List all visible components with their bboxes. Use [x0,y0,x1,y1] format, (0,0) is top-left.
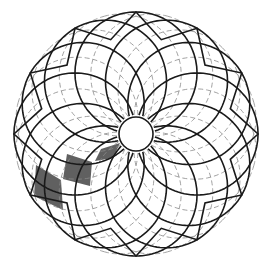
rosette-figure [0,0,267,261]
rosette-curve [14,73,133,134]
rosette-curve [75,12,136,131]
rosette-curve [136,137,197,256]
rosette-curve [139,73,258,134]
center-circle [119,117,153,151]
rosette-curve [136,12,197,131]
rosette-curve [139,134,258,195]
rosette-diagram [0,0,267,261]
